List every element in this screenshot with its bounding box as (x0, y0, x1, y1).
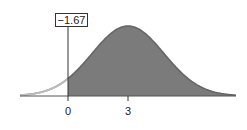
normal-curve-chart (0, 0, 247, 130)
tick-label-0: 0 (65, 106, 71, 117)
annotation-box: −1.67 (55, 13, 88, 27)
tick-label-3: 3 (125, 106, 131, 117)
shaded-area (20, 26, 236, 96)
density-curve-left (20, 79, 68, 96)
